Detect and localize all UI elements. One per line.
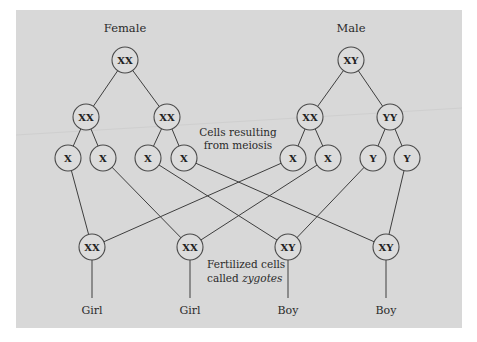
zygote-cell: XX xyxy=(79,234,105,260)
female-parent-cell: XX xyxy=(112,47,138,73)
female-l2-right-cell: XX xyxy=(154,104,180,130)
zygote-cell: XX xyxy=(177,234,203,260)
female-gamete: X xyxy=(55,145,81,171)
outcome-label: Boy xyxy=(278,304,300,317)
zygote-cell: XY xyxy=(373,234,399,260)
outcome-label: Boy xyxy=(376,304,398,317)
meiosis-label-line2: from meiosis xyxy=(204,139,273,151)
svg-text:X: X xyxy=(99,153,107,164)
female-header: Female xyxy=(104,21,147,35)
svg-text:X: X xyxy=(64,153,72,164)
svg-text:XX: XX xyxy=(159,112,175,123)
male-parent-cell: XY xyxy=(338,47,364,73)
outcome-label: Girl xyxy=(81,304,103,317)
male-l2-right-cell: YY xyxy=(377,104,403,130)
svg-text:XX: XX xyxy=(78,112,94,123)
female-gamete: X xyxy=(90,145,116,171)
zygote-cell: XY xyxy=(275,234,301,260)
svg-text:XX: XX xyxy=(182,242,198,253)
male-gamete: Y xyxy=(360,145,386,171)
svg-text:Y: Y xyxy=(368,153,377,164)
zygote-label-line2: called zygotes xyxy=(207,272,283,284)
male-gamete: X xyxy=(280,145,306,171)
zygote-label-line1: Fertilized cells xyxy=(207,258,285,270)
outcome-label: Girl xyxy=(179,304,201,317)
svg-text:X: X xyxy=(289,153,297,164)
svg-text:X: X xyxy=(144,153,152,164)
svg-text:X: X xyxy=(180,153,188,164)
female-gamete: X xyxy=(171,145,197,171)
svg-text:XY: XY xyxy=(379,242,395,253)
sex-determination-diagram: Female Male XX XX XX X X X X XY XX YY X … xyxy=(0,0,477,342)
male-gamete: X xyxy=(315,145,341,171)
svg-text:XY: XY xyxy=(344,55,360,66)
male-gamete: Y xyxy=(394,145,420,171)
svg-text:XY: XY xyxy=(281,242,297,253)
svg-text:YY: YY xyxy=(382,112,398,123)
svg-text:X: X xyxy=(324,153,332,164)
male-header: Male xyxy=(336,21,365,35)
svg-text:XX: XX xyxy=(117,55,133,66)
male-l2-left-cell: XX xyxy=(297,104,323,130)
svg-text:XX: XX xyxy=(302,112,318,123)
svg-text:XX: XX xyxy=(84,242,100,253)
female-l2-left-cell: XX xyxy=(73,104,99,130)
svg-text:Y: Y xyxy=(402,153,411,164)
female-gamete: X xyxy=(135,145,161,171)
meiosis-label-line1: Cells resulting xyxy=(199,126,277,138)
